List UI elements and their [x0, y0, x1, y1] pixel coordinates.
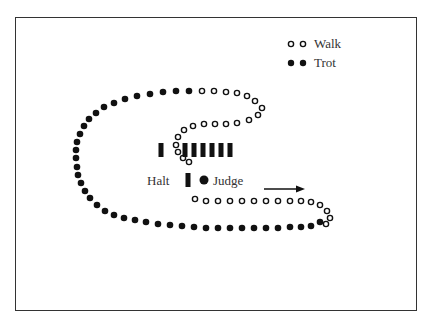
walk-dot [223, 89, 228, 94]
trot-dot [102, 208, 109, 215]
trot-legend-icon [300, 60, 306, 66]
walk-dot [244, 93, 249, 98]
walk-dot [186, 159, 191, 164]
legend: Walk Trot [288, 36, 342, 70]
trot-dot [111, 212, 118, 219]
trot-dot [160, 89, 167, 96]
trot-dot [111, 100, 118, 107]
trot-dot [251, 225, 258, 232]
halt-bar [186, 173, 191, 187]
walk-dot [317, 202, 322, 207]
trot-dot [132, 217, 139, 224]
dressage-test-diagram: Walk Trot Halt Judge [0, 0, 430, 328]
trot-dot [173, 88, 180, 95]
trot-dot [77, 131, 84, 138]
walk-dot [223, 121, 228, 126]
marker-bar [159, 143, 164, 157]
legend-trot-label: Trot [314, 55, 336, 70]
walk-dot [175, 149, 180, 154]
walk-dot [234, 120, 239, 125]
trot-dot [87, 195, 94, 202]
trot-path [73, 88, 324, 232]
walk-dot [298, 198, 303, 203]
walk-dot [227, 198, 232, 203]
walk-dot [246, 117, 251, 122]
walk-dot [203, 198, 208, 203]
trot-dot [275, 225, 282, 232]
walk-dot [251, 198, 256, 203]
walk-dot [212, 121, 217, 126]
trot-dot [287, 224, 294, 231]
halt-label: Halt [147, 173, 170, 188]
trot-dot [317, 219, 324, 226]
trot-dot [227, 225, 234, 232]
trot-dot [215, 225, 222, 232]
marker-bar [210, 143, 215, 157]
trot-dot [122, 96, 129, 103]
walk-dot [275, 198, 280, 203]
trot-dot [263, 225, 270, 232]
walk-dot [190, 123, 195, 128]
trot-dot [78, 180, 85, 187]
trot-dot [308, 223, 315, 230]
halt-marker [186, 173, 191, 187]
trot-dot [191, 224, 198, 231]
walk-dot [175, 134, 180, 139]
trot-dot [94, 202, 101, 209]
trot-dot [121, 215, 128, 222]
walk-dot [252, 98, 257, 103]
trot-dot [239, 225, 246, 232]
trot-legend-icon [288, 60, 294, 66]
trot-dot [73, 155, 80, 162]
trot-dot [81, 123, 88, 130]
walk-dot [234, 90, 239, 95]
trot-dot [134, 93, 141, 100]
marker-bar [192, 143, 197, 157]
walk-dot [263, 198, 268, 203]
marker-bar [183, 143, 188, 157]
judge-marker [200, 176, 209, 185]
walk-dot [323, 221, 328, 226]
trot-dot [82, 188, 89, 195]
judge-label: Judge [213, 173, 244, 188]
walk-dot [327, 215, 332, 220]
walk-dot [215, 198, 220, 203]
legend-walk-label: Walk [314, 36, 342, 51]
marker-bar [228, 143, 233, 157]
trot-dot [147, 91, 154, 98]
trot-dot [155, 221, 162, 228]
trot-dot [203, 225, 210, 232]
marker-bar [219, 143, 224, 157]
marker-bars [159, 143, 233, 157]
walk-dot [181, 127, 186, 132]
walk-dot [199, 88, 204, 93]
marker-bar [201, 143, 206, 157]
trot-dot [74, 164, 81, 171]
direction-arrow-icon [264, 186, 305, 193]
walk-dot [324, 208, 329, 213]
trot-dot [167, 222, 174, 229]
judge-dot [200, 176, 209, 185]
trot-dot [101, 104, 108, 111]
walk-dot [173, 142, 178, 147]
walk-dot [192, 196, 197, 201]
trot-dot [75, 172, 82, 179]
trot-dot [74, 139, 81, 146]
walk-legend-icon [288, 41, 293, 46]
trot-dot [86, 116, 93, 123]
trot-dot [73, 147, 80, 154]
walk-dot [287, 198, 292, 203]
walk-dot [211, 88, 216, 93]
walk-dot [259, 105, 264, 110]
walk-path [173, 88, 332, 226]
walk-dot [255, 112, 260, 117]
walk-legend-icon [300, 41, 305, 46]
trot-dot [186, 88, 193, 95]
trot-dot [93, 110, 100, 117]
trot-dot [298, 224, 305, 231]
walk-dot [201, 121, 206, 126]
walk-dot [308, 199, 313, 204]
trot-dot [179, 223, 186, 230]
trot-dot [143, 219, 150, 226]
walk-dot [239, 198, 244, 203]
